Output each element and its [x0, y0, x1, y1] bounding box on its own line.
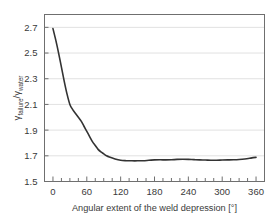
x-axis-title-text: Angular extent of the weld depression [°… [72, 203, 237, 213]
y-tick-label: 2.3 [24, 73, 37, 84]
x-tick-label: 360 [248, 186, 264, 197]
x-axis-title: Angular extent of the weld depression [°… [72, 203, 237, 213]
x-tick-label: 60 [82, 186, 93, 197]
y-tick-label: 1.5 [24, 176, 37, 187]
y-tick-label: 1.7 [24, 150, 37, 161]
y-tick-label: 2.1 [24, 99, 37, 110]
x-tick-label: 240 [180, 186, 196, 197]
y-tick-label: 1.9 [24, 125, 37, 136]
plot-area-background [45, 15, 265, 182]
y-tick-label: 2.5 [24, 47, 37, 58]
x-tick-label: 120 [113, 186, 129, 197]
x-tick-label: 0 [50, 186, 55, 197]
x-tick-label: 180 [147, 186, 163, 197]
chart-svg: 1.51.71.92.12.32.52.7 060120180240300360… [0, 0, 277, 224]
x-tick-label: 300 [214, 186, 230, 197]
y-tick-label: 2.7 [24, 22, 37, 33]
chart-figure: 1.51.71.92.12.32.52.7 060120180240300360… [0, 0, 277, 224]
